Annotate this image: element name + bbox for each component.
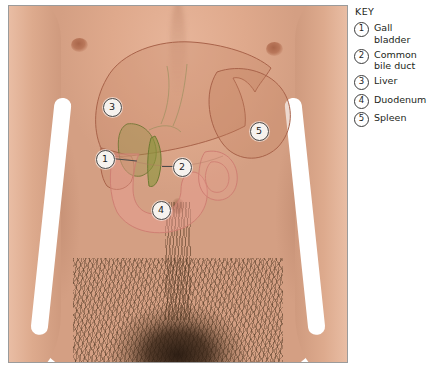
anatomy-figure: 1 2 3 4 5 KEY 1 Gall bladder 2 Common bi… xyxy=(0,0,430,369)
key-label-2: Common bile duct xyxy=(374,49,428,72)
organ-outlines-svg xyxy=(9,6,347,362)
key-bullet-1: 1 xyxy=(354,22,369,37)
key-label-4: Duodenum xyxy=(374,94,426,106)
key-bullet-5: 5 xyxy=(354,112,369,127)
marker-gall-bladder[interactable]: 1 xyxy=(96,150,115,169)
torso-photograph: 1 2 3 4 5 xyxy=(9,6,347,362)
key-label-3: Liver xyxy=(374,75,397,87)
marker-liver[interactable]: 3 xyxy=(103,98,122,117)
leader-line-common-bile-duct xyxy=(162,166,173,167)
pylorus-loop-outline xyxy=(199,151,238,200)
marker-common-bile-duct[interactable]: 2 xyxy=(173,158,192,177)
key-item-liver[interactable]: 3 Liver xyxy=(354,75,428,90)
key-item-gall-bladder[interactable]: 1 Gall bladder xyxy=(354,22,428,45)
key-item-common-bile-duct[interactable]: 2 Common bile duct xyxy=(354,49,428,72)
key-legend: KEY 1 Gall bladder 2 Common bile duct 3 … xyxy=(354,6,428,131)
key-bullet-3: 3 xyxy=(354,75,369,90)
key-bullet-4: 4 xyxy=(354,94,369,109)
key-item-spleen[interactable]: 5 Spleen xyxy=(354,112,428,127)
key-label-1: Gall bladder xyxy=(374,22,428,45)
key-bullet-2: 2 xyxy=(354,49,369,64)
marker-spleen[interactable]: 5 xyxy=(250,122,269,141)
torso-photo-panel: 1 2 3 4 5 xyxy=(8,5,348,363)
common-bile-duct-overlay xyxy=(148,136,161,187)
key-title: KEY xyxy=(355,6,428,17)
organ-overlay-layer xyxy=(9,6,347,362)
marker-duodenum[interactable]: 4 xyxy=(152,201,171,220)
key-item-duodenum[interactable]: 4 Duodenum xyxy=(354,94,428,109)
spleen-overlay xyxy=(209,69,290,159)
key-label-5: Spleen xyxy=(374,112,406,124)
